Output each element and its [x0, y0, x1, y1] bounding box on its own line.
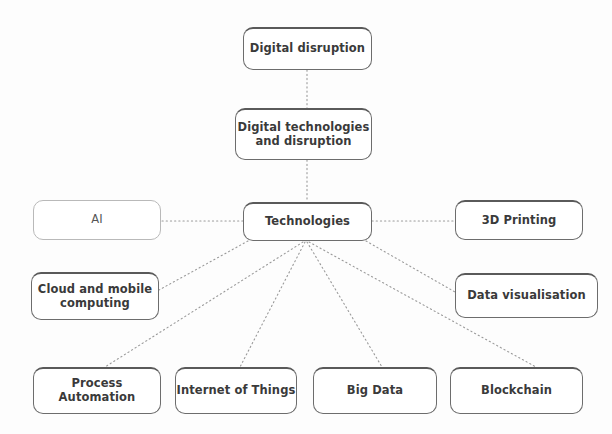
- connector-technologies-to-big_data: [307, 242, 382, 367]
- node-data-visualisation[interactable]: Data visualisation: [455, 273, 598, 318]
- node-label: Digital technologies and disruption: [238, 121, 370, 148]
- node-label: 3D Printing: [482, 214, 557, 228]
- node-blockchain[interactable]: Blockchain: [450, 367, 583, 414]
- node-label: Digital disruption: [250, 42, 365, 56]
- node-label: Process Automation: [34, 377, 160, 404]
- mindmap-canvas: Digital disruption Digital technologies …: [0, 0, 612, 434]
- node-label: AI: [91, 213, 102, 227]
- node-technologies[interactable]: Technologies: [243, 202, 372, 241]
- node-big-data[interactable]: Big Data: [313, 367, 437, 414]
- connector-technologies-to-data_visualisation: [366, 241, 455, 292]
- node-cloud-and-mobile-computing[interactable]: Cloud and mobile computing: [31, 272, 159, 320]
- node-3d-printing[interactable]: 3D Printing: [455, 200, 583, 240]
- node-digital-disruption[interactable]: Digital disruption: [243, 27, 372, 70]
- node-process-automation[interactable]: Process Automation: [33, 367, 161, 414]
- node-label: Data visualisation: [467, 289, 586, 303]
- node-ai[interactable]: AI: [33, 200, 161, 240]
- node-label: Internet of Things: [177, 384, 296, 398]
- node-internet-of-things[interactable]: Internet of Things: [175, 367, 297, 414]
- node-digital-technologies-and-disruption[interactable]: Digital technologies and disruption: [235, 108, 372, 160]
- node-label: Technologies: [265, 215, 350, 229]
- node-label: Cloud and mobile computing: [38, 283, 152, 310]
- connector-technologies-to-cloud_and_mobile_computing: [159, 241, 248, 290]
- node-label: Blockchain: [481, 384, 552, 398]
- node-label: Big Data: [347, 384, 403, 398]
- connector-technologies-to-internet_of_things: [240, 242, 305, 367]
